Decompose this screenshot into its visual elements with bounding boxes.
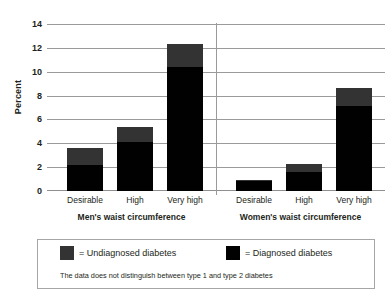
x-axis-group-labels: Men's waist circumferenceWomen's waist c… xyxy=(47,211,385,225)
y-axis-tick-labels: 02468101214 xyxy=(0,24,42,191)
y-axis-tick-label: 10 xyxy=(2,67,42,76)
legend-label: = Undiagnosed diabetes xyxy=(79,246,176,260)
legend-label: = Diagnosed diabetes xyxy=(245,246,332,260)
legend-swatch-diagnosed-icon xyxy=(226,246,240,260)
bar-segment-undiagnosed xyxy=(167,44,203,67)
legend-entries: = Undiagnosed diabetes= Diagnosed diabet… xyxy=(38,246,374,266)
bar-women-high[interactable] xyxy=(286,164,322,191)
plot-area xyxy=(47,24,385,191)
chart-figure: Percent 02468101214 DesirableHighVery hi… xyxy=(0,0,391,302)
bar-women-desirable[interactable] xyxy=(236,180,272,191)
x-axis-tick-labels: DesirableHighVery highDesirableHighVery … xyxy=(47,194,385,208)
y-axis-tick-label: 6 xyxy=(2,115,42,124)
x-axis-tick-label: High xyxy=(110,194,160,207)
legend-entry-diagnosed[interactable]: = Diagnosed diabetes xyxy=(226,246,332,260)
bar-men-high[interactable] xyxy=(117,127,153,191)
x-axis-tick-label: Very high xyxy=(160,194,210,207)
y-axis-tick-label: 8 xyxy=(2,91,42,100)
y-axis-tick-label: 2 xyxy=(2,163,42,172)
bar-segment-undiagnosed xyxy=(67,148,103,165)
group-divider xyxy=(216,23,217,195)
bar-segment-diagnosed xyxy=(236,181,272,191)
bar-segment-undiagnosed xyxy=(336,88,372,106)
y-axis-tick-label: 0 xyxy=(2,187,42,196)
legend: = Undiagnosed diabetes= Diagnosed diabet… xyxy=(37,239,375,289)
legend-swatch-undiagnosed-icon xyxy=(60,246,74,260)
bar-segment-diagnosed xyxy=(286,172,322,191)
y-axis-tick-label: 14 xyxy=(2,20,42,29)
x-axis-tick-label: Very high xyxy=(329,194,379,207)
bar-segment-diagnosed xyxy=(117,142,153,191)
bar-segment-diagnosed xyxy=(167,67,203,191)
x-axis-tick-label: Desirable xyxy=(229,194,279,207)
y-axis-tick-label: 12 xyxy=(2,43,42,52)
y-axis-tick-label: 4 xyxy=(2,139,42,148)
bar-men-very-high[interactable] xyxy=(167,44,203,191)
bar-segment-undiagnosed xyxy=(286,164,322,172)
bar-men-desirable[interactable] xyxy=(67,148,103,191)
bar-segment-diagnosed xyxy=(336,106,372,191)
bar-segment-undiagnosed xyxy=(117,127,153,143)
x-axis-group-label: Men's waist circumference xyxy=(47,211,216,224)
x-axis-group-label: Women's waist circumference xyxy=(216,211,385,224)
bar-women-very-high[interactable] xyxy=(336,88,372,191)
x-axis-tick-label: High xyxy=(279,194,329,207)
bar-segment-diagnosed xyxy=(67,165,103,191)
x-axis-tick-label: Desirable xyxy=(60,194,110,207)
legend-entry-undiagnosed[interactable]: = Undiagnosed diabetes xyxy=(60,246,176,260)
legend-note: The data does not distinguish between ty… xyxy=(60,270,273,281)
